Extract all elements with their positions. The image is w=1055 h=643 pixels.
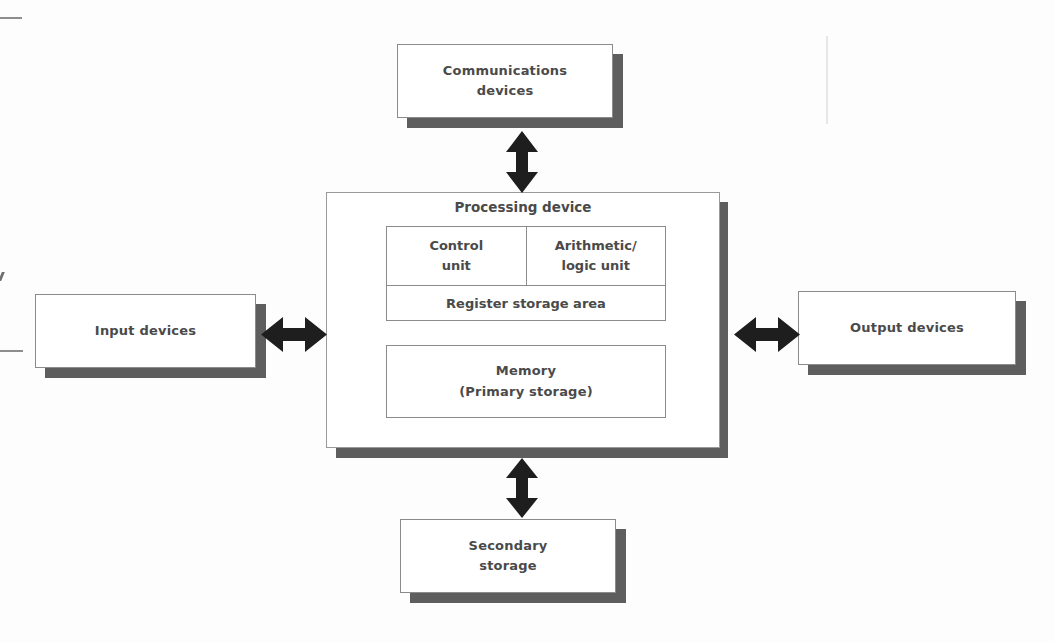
page-edge-mark-top [0, 17, 22, 19]
output-link-arrow [734, 315, 800, 354]
scan-artifact-line [826, 36, 828, 124]
communications-devices-label-line2: devices [477, 81, 534, 101]
arithmetic-logic-unit-label-line2: logic unit [561, 256, 630, 276]
input-devices-box[interactable]: Input devices [35, 294, 256, 368]
control-unit-label-line2: unit [442, 256, 471, 276]
input-devices-label: Input devices [95, 321, 196, 341]
communications-devices-label-line1: Communications [443, 61, 567, 81]
page-edge-mark-bottom [0, 350, 23, 352]
cpu-units-group: Control unit Arithmetic/ logic unit Regi… [386, 226, 666, 321]
diagram-canvas: Communications devices Processing device… [0, 0, 1055, 643]
arithmetic-logic-unit-label-line1: Arithmetic/ [555, 236, 637, 256]
control-unit-label-line1: Control [429, 236, 483, 256]
secondary-storage-label-line1: Secondary [469, 536, 548, 556]
communications-link-arrow [503, 131, 541, 193]
memory-label-line1: Memory [496, 361, 556, 381]
register-storage-area-box[interactable]: Register storage area [387, 285, 665, 320]
secondary-storage-box[interactable]: Secondary storage [400, 519, 616, 593]
input-link-arrow [261, 315, 327, 354]
output-devices-label: Output devices [850, 318, 964, 338]
communications-devices-box[interactable]: Communications devices [397, 44, 613, 118]
memory-label-line2: (Primary storage) [459, 382, 593, 402]
secondary-storage-link-arrow [503, 458, 541, 518]
output-devices-box[interactable]: Output devices [798, 291, 1016, 365]
register-storage-area-label: Register storage area [446, 296, 606, 311]
processing-device-label: Processing device [326, 199, 720, 215]
memory-box[interactable]: Memory (Primary storage) [386, 345, 666, 418]
arithmetic-logic-unit-box[interactable]: Arithmetic/ logic unit [526, 227, 666, 285]
secondary-storage-label-line2: storage [479, 556, 537, 576]
control-unit-box[interactable]: Control unit [387, 227, 526, 285]
cpu-units-top-row: Control unit Arithmetic/ logic unit [387, 227, 665, 285]
page-edge-mark-tick [0, 272, 14, 281]
